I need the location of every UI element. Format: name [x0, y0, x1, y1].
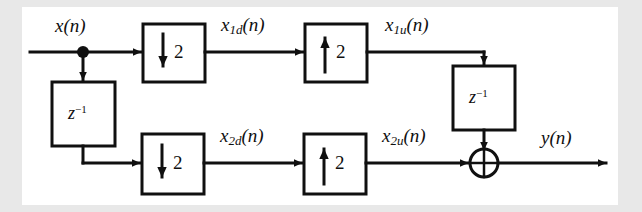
label-delay-right: z−1	[469, 88, 488, 106]
label-delay-left-base: z	[68, 103, 75, 123]
block-diagram-figure: x(n) x1d(n) x1u(n) x2d(n) x2u(n) y(n) 2 …	[0, 0, 642, 212]
label-input-signal: x(n)	[55, 16, 86, 35]
label-bottom-decimated-sub: 2d	[228, 133, 241, 148]
label-top-upsampled-signal: x1u(n)	[385, 15, 429, 36]
label-top-decimated-signal: x1d(n)	[221, 15, 265, 36]
label-down-bottom-factor: 2	[173, 153, 183, 172]
label-down-top-factor: 2	[174, 42, 184, 61]
label-top-decimated-arg: (n)	[242, 14, 264, 35]
label-top-upsampled-sub: 1u	[393, 22, 406, 37]
label-top-decimated-sub: 1d	[229, 22, 242, 37]
diagram-canvas	[0, 0, 642, 212]
label-bottom-decimated-signal: x2d(n)	[220, 126, 264, 147]
label-up-top-factor: 2	[336, 42, 346, 61]
label-bottom-upsampled-signal: x2u(n)	[382, 126, 426, 147]
label-bottom-upsampled-sub: 2u	[390, 133, 403, 148]
label-delay-left-exponent: −1	[75, 103, 87, 115]
label-input-arg: (n)	[63, 15, 85, 36]
label-bottom-decimated-arg: (n)	[241, 125, 263, 146]
label-bottom-upsampled-arg: (n)	[403, 125, 425, 146]
label-delay-right-exponent: −1	[476, 87, 488, 99]
label-up-bottom-factor: 2	[335, 153, 345, 172]
label-delay-right-base: z	[469, 87, 476, 107]
label-output-signal: y(n)	[541, 128, 572, 147]
label-top-upsampled-arg: (n)	[406, 14, 428, 35]
label-output-arg: (n)	[549, 127, 571, 148]
label-delay-left: z−1	[68, 104, 87, 122]
